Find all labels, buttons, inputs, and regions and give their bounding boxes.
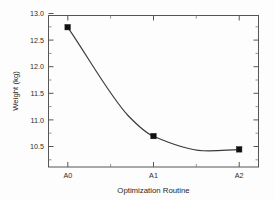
- y-tick-label: 11.0: [31, 116, 44, 125]
- data-point-markers: [65, 25, 242, 153]
- fitted-curve: [68, 27, 239, 151]
- x-axis-tick-labels: A0 A1 A2: [63, 171, 243, 180]
- x-axis-title: Optimization Routine: [117, 186, 189, 195]
- y-axis-tick-labels: 10.5 11.0 11.5 12.0 12.5 13.0: [30, 9, 44, 151]
- chart-figure: 10.5 11.0 11.5 12.0 12.5 13.0 A0 A1 A2 O…: [0, 0, 275, 200]
- weight-vs-optimization-routine-chart: 10.5 11.0 11.5 12.0 12.5 13.0 A0 A1 A2 O…: [0, 0, 275, 200]
- plot-frame: [49, 16, 259, 168]
- x-tick-label: A1: [149, 171, 158, 180]
- y-axis-major-ticks: [49, 14, 259, 147]
- x-tick-label: A2: [235, 171, 244, 180]
- x-axis-major-ticks: [68, 16, 239, 168]
- data-point-a0: [65, 25, 70, 30]
- x-axis-minor-ticks: [111, 16, 197, 168]
- data-point-a1: [151, 133, 156, 138]
- y-tick-label: 13.0: [30, 9, 44, 18]
- x-tick-label: A0: [63, 171, 72, 180]
- data-point-a2: [237, 147, 242, 152]
- y-tick-label: 12.5: [30, 36, 44, 45]
- y-axis-title: Weight (kg): [11, 71, 20, 111]
- y-tick-label: 12.0: [30, 62, 44, 71]
- y-tick-label: 11.5: [31, 89, 44, 98]
- y-tick-label: 10.5: [30, 142, 44, 151]
